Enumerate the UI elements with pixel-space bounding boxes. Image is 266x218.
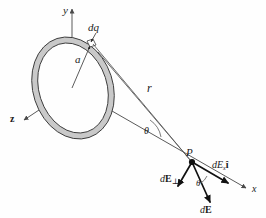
x-axis-label: x bbox=[251, 183, 257, 194]
charged-ring bbox=[19, 26, 127, 150]
theta-arc-lower bbox=[201, 176, 207, 183]
point-P-label: P bbox=[185, 146, 193, 158]
y-axis-label: y bbox=[62, 4, 68, 16]
dE-total-label-E: E bbox=[205, 204, 212, 215]
svg-text:dExî: dExî bbox=[212, 159, 229, 171]
dE-perp-label-sub: ⊥ bbox=[172, 177, 180, 186]
dE-total-label: dE bbox=[200, 204, 212, 215]
physics-figure-ring-field: y z x dq a r θ θ P dE⊥ dExî bbox=[0, 0, 266, 218]
dE-perp-label: dE⊥ bbox=[160, 173, 179, 186]
distance-label-r: r bbox=[147, 81, 152, 95]
svg-text:dE⊥: dE⊥ bbox=[160, 173, 179, 186]
dq-label: dq bbox=[88, 21, 100, 33]
svg-text:dE: dE bbox=[200, 204, 212, 215]
dE-x-label: dExî bbox=[212, 159, 229, 171]
dE-x-label-main: dE bbox=[212, 159, 223, 170]
theta-label-lower: θ bbox=[196, 178, 201, 188]
dE-perp-vector bbox=[178, 162, 192, 186]
radius-label-a: a bbox=[75, 53, 81, 65]
theta-label-upper: θ bbox=[144, 125, 149, 136]
dE-x-label-ihat: î bbox=[225, 159, 229, 170]
diagram-canvas: y z x dq a r θ θ P dE⊥ dExî bbox=[0, 0, 266, 218]
z-axis-label: z bbox=[10, 113, 15, 124]
